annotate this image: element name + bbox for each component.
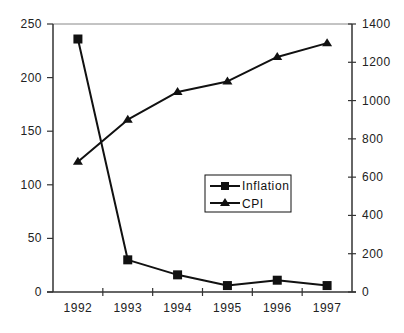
left-tick-label: 150 [20, 124, 42, 138]
series-line [78, 39, 327, 286]
legend: Inflation CPI [205, 175, 291, 212]
left-y-axis: 050100150200250 [20, 17, 53, 299]
legend-label-inflation: Inflation [242, 179, 289, 193]
x-tick-label: 1997 [313, 301, 342, 315]
series-layer [73, 35, 332, 291]
series-line [78, 43, 327, 162]
x-axis: 199219931994199519961997 [47, 288, 356, 315]
x-tick-label: 1993 [113, 301, 142, 315]
x-tick-label: 1996 [263, 301, 292, 315]
square-marker-icon [173, 270, 182, 279]
right-tick-label: 400 [362, 208, 384, 222]
left-tick-label: 100 [20, 178, 42, 192]
x-tick-label: 1992 [64, 301, 93, 315]
square-marker-icon [73, 35, 82, 44]
square-marker-icon [123, 255, 132, 264]
legend-label-cpi: CPI [242, 197, 264, 211]
right-tick-label: 600 [362, 170, 384, 184]
right-tick-label: 800 [362, 132, 384, 146]
left-tick-label: 0 [35, 285, 42, 299]
square-marker-icon [323, 281, 332, 290]
right-y-axis: 0200400600800100012001400 [348, 17, 391, 299]
series-cpi [73, 38, 332, 165]
series-inflation [73, 35, 331, 291]
square-marker-icon [273, 276, 282, 285]
dual-axis-line-chart: 050100150200250 020040060080010001200140… [0, 0, 404, 333]
right-tick-label: 0 [362, 285, 369, 299]
right-tick-label: 1200 [362, 55, 391, 69]
left-tick-label: 250 [20, 17, 42, 31]
right-tick-label: 1400 [362, 17, 391, 31]
triangle-marker-icon [322, 38, 332, 46]
left-tick-label: 50 [28, 231, 42, 245]
right-tick-label: 200 [362, 247, 384, 261]
square-marker-icon [221, 182, 229, 190]
square-marker-icon [223, 281, 232, 290]
right-tick-label: 1000 [362, 94, 391, 108]
left-tick-label: 200 [20, 71, 42, 85]
x-tick-label: 1995 [213, 301, 242, 315]
x-tick-label: 1994 [163, 301, 192, 315]
